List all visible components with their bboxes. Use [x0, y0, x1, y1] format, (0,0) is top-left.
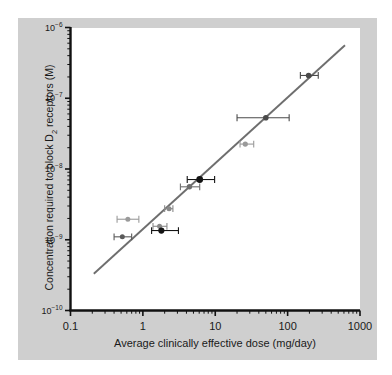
- data-point-6: [196, 176, 203, 183]
- y-axis-label-container: Concentration required to block D2 recep…: [22, 20, 36, 300]
- x-tick-label: 100: [258, 320, 318, 332]
- x-tick-label: 0.1: [41, 320, 101, 332]
- x-axis-label: Average clinically effective dose (mg/da…: [70, 337, 360, 349]
- x-tick-label: 10: [185, 320, 245, 332]
- data-point-0: [125, 217, 130, 222]
- y-tick-label: 10−8: [45, 162, 62, 174]
- y-axis-label-pre: Concentration required to block D: [43, 134, 55, 290]
- data-point-3: [158, 227, 164, 233]
- x-tick-label: 1000: [330, 320, 390, 332]
- y-axis-label: Concentration required to block D2 recep…: [43, 53, 58, 303]
- data-point-8: [263, 115, 269, 121]
- data-point-1: [120, 234, 125, 239]
- data-point-4: [167, 206, 172, 211]
- y-tick-label: 10−6: [45, 21, 62, 33]
- data-point-7: [243, 141, 248, 146]
- y-tick-label: 10−7: [45, 91, 62, 103]
- y-axis-label-subscript: 2: [50, 130, 59, 134]
- figure-canvas: Concentration required to block D2 recep…: [0, 0, 392, 375]
- y-tick-label: 10−9: [45, 233, 62, 245]
- data-point-9: [306, 73, 312, 79]
- data-points: [120, 73, 312, 240]
- x-tick-label: 1: [113, 320, 173, 332]
- y-tick-label: 10−10: [42, 304, 63, 316]
- data-point-5: [187, 184, 192, 189]
